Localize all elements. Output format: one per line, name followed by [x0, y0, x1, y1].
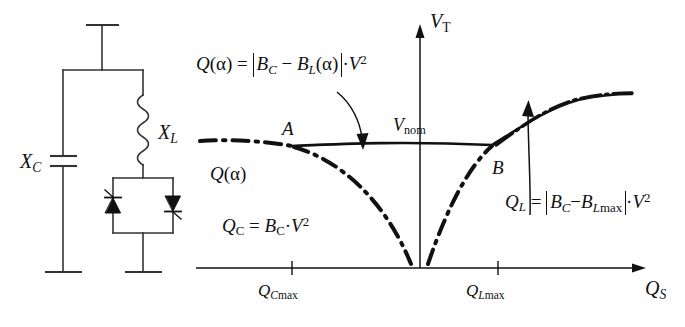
curve-q-alpha-left-flat — [200, 140, 292, 146]
abs-bars-q-l: BC−BLmax — [546, 191, 626, 215]
point-label-b: B — [492, 157, 504, 179]
leader-q-alpha-arrowhead — [357, 133, 369, 150]
annotation-q-c-formula: QC = BC·V2 — [222, 214, 309, 239]
point-label-a: A — [282, 118, 294, 140]
figure-canvas: XC XL VT QS QCmax QLmax A B Vnom Q(α) Q(… — [0, 0, 685, 327]
thyristor-left-triangle — [106, 198, 121, 213]
leader-q-l-arrowhead — [522, 100, 534, 117]
annotation-q-l-formula: QL = BC−BLmax·V2 — [505, 190, 651, 215]
y-axis-label: VT — [430, 10, 451, 36]
curve-q-l-right-saturating — [496, 93, 632, 145]
curve-q-alpha-left-descent — [294, 147, 411, 264]
y-axis-arrowhead — [416, 24, 425, 38]
label-xc: XC — [20, 150, 41, 176]
circuit-schematic — [46, 25, 181, 272]
abs-bars-q-alpha: BC − BL(α) — [253, 53, 343, 77]
x-axis-arrowhead — [632, 264, 646, 273]
diagram-vector-layer — [0, 0, 685, 327]
thyristor-right-gate — [173, 212, 181, 219]
curve-label-q-alpha: Q(α) — [210, 163, 246, 185]
thyristor-right-triangle — [166, 196, 181, 211]
inductor-coil — [138, 95, 149, 165]
curve-control-slope-solid — [292, 143, 492, 146]
leader-q-alpha — [337, 92, 362, 138]
tick-label-qlmax: QLmax — [466, 281, 505, 302]
curve-q-l-right-rise — [428, 146, 492, 264]
annotation-q-alpha-formula: Q(α) = BC − BL(α)·V2 — [196, 52, 367, 77]
curve-saturation-solid — [492, 94, 632, 145]
label-v-nom: Vnom — [393, 115, 426, 138]
label-xl: XL — [158, 121, 178, 147]
thyristor-left-gate — [105, 190, 113, 197]
x-axis-label: QS — [645, 277, 666, 303]
tick-label-qcmax: QCmax — [258, 281, 298, 302]
